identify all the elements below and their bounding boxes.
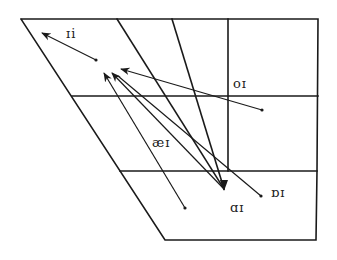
label-ai: ɑɪ — [230, 200, 244, 215]
central-diagonal — [172, 19, 224, 189]
trapezoid-grid — [21, 19, 318, 240]
arrow-aei — [104, 73, 185, 208]
labels: ɪi oɪ æɪ ɒɪ ɑɪ — [66, 26, 285, 215]
arrow-open-oi — [118, 76, 261, 196]
vowel-chart: ɪi oɪ æɪ ɒɪ ɑɪ — [0, 0, 337, 260]
label-aei: æɪ — [152, 135, 170, 150]
front-diagonal — [117, 19, 224, 189]
diphthong-arrows — [42, 33, 264, 210]
start-dot-aei — [183, 206, 186, 209]
label-open-oi: ɒɪ — [271, 185, 285, 200]
start-dot-open-oi — [259, 194, 262, 197]
start-dot-ii — [94, 58, 97, 61]
outer-trapezoid — [21, 19, 318, 240]
label-oi: oɪ — [233, 76, 247, 91]
label-ii: ɪi — [66, 26, 76, 41]
start-dot-oi — [260, 108, 263, 111]
